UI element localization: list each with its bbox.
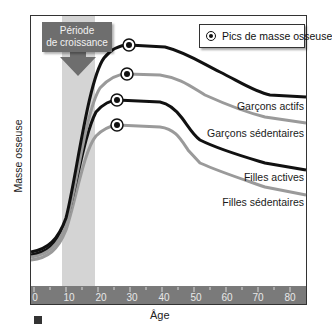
x-tick-label: 60 <box>221 292 232 303</box>
series-label-filles-sedentaires: Filles sédentaires <box>222 196 304 208</box>
x-tick-label: 70 <box>252 292 263 303</box>
series-label-garcons-sedentaires: Garçons sédentaires <box>207 127 304 139</box>
peak-marker-filles-actives <box>111 94 123 106</box>
peak-marker-icon <box>206 31 216 41</box>
y-axis-label: Masse osseuse <box>12 116 24 196</box>
peak-marker-filles-sedentaires <box>111 119 123 131</box>
legend-label: Pics de masse osseuse <box>222 30 332 42</box>
growth-period-line1: Période <box>42 25 112 37</box>
corner-square-mark <box>34 316 42 324</box>
x-tick-label: 20 <box>95 292 106 303</box>
x-tick-label: 30 <box>126 292 137 303</box>
peak-marker-garcons-sedentaires <box>121 68 133 80</box>
x-tick-label: 50 <box>190 292 201 303</box>
x-tick-label: 0 <box>32 292 38 303</box>
series-label-filles-actives: Filles actives <box>244 171 304 183</box>
x-axis-label: Âge <box>150 309 170 321</box>
growth-period-label: Période de croissance <box>42 22 112 52</box>
peak-marker-garcons-actifs <box>123 39 135 51</box>
x-tick-label: 10 <box>63 292 74 303</box>
legend: Pics de masse osseuse <box>199 24 305 48</box>
series-label-garcons-actifs: Garçons actifs <box>237 100 304 112</box>
x-tick-label: 40 <box>158 292 169 303</box>
x-tick-label: 80 <box>284 292 295 303</box>
growth-period-line2: de croissance <box>42 37 112 49</box>
